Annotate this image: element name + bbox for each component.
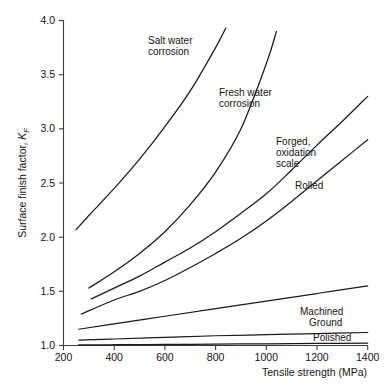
curve-forged-oxidation-scale xyxy=(91,96,367,299)
curve-label-salt-water-corrosion-line1: Salt water xyxy=(148,35,193,46)
x-tick-label-1400: 1400 xyxy=(356,351,380,363)
curve-label-forged-line1: Forged, xyxy=(276,136,310,147)
x-tick-label-200: 200 xyxy=(55,351,73,363)
y-tick-label-1.0: 1.0 xyxy=(40,339,55,351)
curve-label-fresh-water-corrosion-line2: corrosion xyxy=(219,98,260,109)
y-tick-label-3.0: 3.0 xyxy=(40,122,55,134)
y-tick-label-1.5: 1.5 xyxy=(40,285,55,297)
curve-label-polished: Polished xyxy=(313,332,351,343)
curve-label-machined: Machined xyxy=(300,306,343,317)
x-tick-label-400: 400 xyxy=(105,351,123,363)
surface-finish-factor-chart: 4.0 3.5 3.0 2.5 2.0 1.5 1.0 200 400 600 … xyxy=(0,0,391,391)
y-axis-title-main: Surface finish factor, xyxy=(16,140,28,238)
x-tick-label-600: 600 xyxy=(156,351,174,363)
curve-label-forged-line3: scale xyxy=(276,158,300,169)
y-tick-label-3.5: 3.5 xyxy=(40,68,55,80)
y-tick-label-2.0: 2.0 xyxy=(40,231,55,243)
y-axis-ticks xyxy=(59,21,64,346)
x-tick-label-1000: 1000 xyxy=(255,351,279,363)
chart-plot-area: 4.0 3.5 3.0 2.5 2.0 1.5 1.0 200 400 600 … xyxy=(0,0,391,391)
y-tick-label-4.0: 4.0 xyxy=(40,14,55,26)
x-tick-label-1200: 1200 xyxy=(305,351,329,363)
curve-polished xyxy=(79,343,368,345)
y-axis-title-subscript: F xyxy=(22,128,31,133)
curve-label-ground: Ground xyxy=(309,317,342,328)
curve-annotations: Salt water corrosion Fresh water corrosi… xyxy=(148,35,351,343)
y-axis-title: Surface finish factor, KF xyxy=(16,128,31,238)
curve-salt-water-corrosion xyxy=(76,28,226,230)
curve-fresh-water-corrosion xyxy=(89,31,277,288)
x-tick-label-800: 800 xyxy=(207,351,225,363)
y-tick-label-2.5: 2.5 xyxy=(40,177,55,189)
curve-label-rolled: Rolled xyxy=(295,180,323,191)
curve-label-forged-line2: oxidation xyxy=(276,147,316,158)
curve-label-fresh-water-corrosion-line1: Fresh water xyxy=(219,87,272,98)
curve-rolled xyxy=(81,140,367,314)
x-axis-ticks xyxy=(64,346,368,351)
curve-label-salt-water-corrosion-line2: corrosion xyxy=(148,46,189,57)
data-curves xyxy=(76,28,368,345)
x-axis-title: Tensile strength (MPa) xyxy=(262,366,367,378)
